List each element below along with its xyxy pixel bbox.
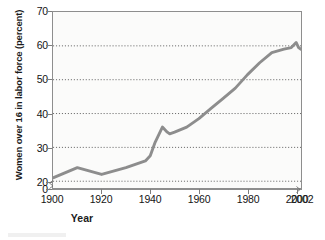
x-axis-tick-label: 2002 <box>279 194 325 205</box>
x-axis-tick-label: 1920 <box>78 194 124 205</box>
x-axis-tick-label: 1940 <box>127 194 173 205</box>
series-line <box>53 42 301 177</box>
data-line-series <box>53 12 301 188</box>
y-axis-tick-label: 30 <box>24 143 48 153</box>
x-axis-spine <box>52 189 302 190</box>
x-axis-title: Year <box>47 212 117 224</box>
y-axis-tick-label: 50 <box>24 74 48 84</box>
x-axis-tick-label: 1980 <box>225 194 271 205</box>
chart-figure: Women over 16 in labor force (percent) 0… <box>0 0 325 240</box>
y-axis-spine <box>52 11 53 189</box>
y-axis-tick-label: 40 <box>24 109 48 119</box>
y-axis-tick-label: 70 <box>24 6 48 16</box>
y-axis-break-icon <box>48 180 55 189</box>
x-axis-tick-label: 1900 <box>29 194 75 205</box>
y-axis-tick-label: 60 <box>24 40 48 50</box>
y-axis-tick-label: 20 <box>24 177 48 187</box>
x-axis-tick-label: 1960 <box>176 194 222 205</box>
scan-artifact <box>8 233 66 237</box>
y-axis-title: Women over 16 in labor force (percent) <box>12 5 26 185</box>
plot-area <box>52 11 302 189</box>
